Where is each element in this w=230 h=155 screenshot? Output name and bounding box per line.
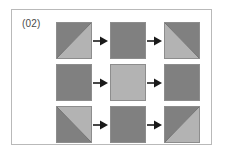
shape-grid xyxy=(56,22,204,143)
split-diagonal-bl-tr-icon xyxy=(165,107,199,142)
grid-gap xyxy=(101,103,102,104)
arrow-row3-1 xyxy=(92,106,110,143)
solid-square-icon xyxy=(111,65,145,100)
cell-row2-col2 xyxy=(110,64,146,101)
split-diagonal-tl-br-icon xyxy=(57,107,91,142)
cell-row3-col1 xyxy=(56,106,92,143)
right-arrow-icon xyxy=(92,119,110,131)
right-arrow-icon xyxy=(92,35,110,47)
grid-gap xyxy=(128,61,129,62)
arrow-row1-2 xyxy=(146,22,164,59)
grid-gap xyxy=(155,61,156,62)
cell-row3-col3 xyxy=(164,106,200,143)
grid-gap xyxy=(128,103,129,104)
grid-gap xyxy=(74,61,75,62)
figure-root: (02) xyxy=(0,0,230,155)
arrow-row2-2 xyxy=(146,64,164,101)
grid-gap xyxy=(182,103,183,104)
grid-gap xyxy=(182,61,183,62)
split-diagonal-bl-tr-icon xyxy=(57,23,91,58)
right-arrow-icon xyxy=(92,77,110,89)
arrow-row1-1 xyxy=(92,22,110,59)
cell-row3-col2 xyxy=(110,106,146,143)
cell-row2-col1 xyxy=(56,64,92,101)
solid-square-icon xyxy=(165,65,199,100)
grid-gap xyxy=(101,61,102,62)
split-diagonal-tl-br-icon xyxy=(165,23,199,58)
arrow-row3-2 xyxy=(146,106,164,143)
solid-square-icon xyxy=(57,65,91,100)
cell-row1-col3 xyxy=(164,22,200,59)
right-arrow-icon xyxy=(146,119,164,131)
arrow-row2-1 xyxy=(92,64,110,101)
figure-label: (02) xyxy=(22,18,41,30)
grid-gap xyxy=(155,103,156,104)
right-arrow-icon xyxy=(146,77,164,89)
right-arrow-icon xyxy=(146,35,164,47)
solid-square-icon xyxy=(111,23,145,58)
cell-row2-col3 xyxy=(164,64,200,101)
solid-square-icon xyxy=(111,107,145,142)
cell-row1-col2 xyxy=(110,22,146,59)
figure-frame: (02) xyxy=(11,9,212,145)
grid-gap xyxy=(74,103,75,104)
cell-row1-col1 xyxy=(56,22,92,59)
